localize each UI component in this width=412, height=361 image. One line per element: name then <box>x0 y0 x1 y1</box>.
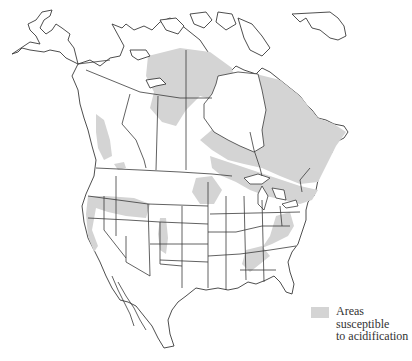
legend-swatch <box>311 307 329 318</box>
map-legend: Areas susceptible to acidification <box>311 305 412 343</box>
greenland <box>292 12 346 40</box>
legend-label-line2: to acidification <box>336 330 412 343</box>
legend-label-line1: Areas susceptible <box>336 305 412 330</box>
alaska <box>12 10 78 64</box>
legend-label: Areas susceptible to acidification <box>336 305 412 343</box>
